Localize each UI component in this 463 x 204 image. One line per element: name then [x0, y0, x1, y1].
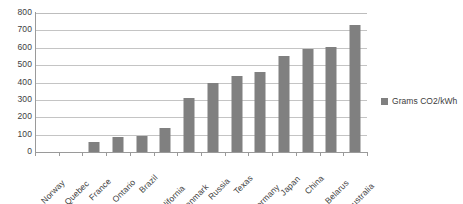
x-axis-tick-label: Japan [278, 174, 302, 198]
bar [350, 25, 361, 152]
bar-slot [35, 13, 59, 152]
bar [136, 136, 147, 152]
bar-slot [130, 13, 154, 152]
bar [184, 98, 195, 152]
x-axis-tick-label: Belarus [323, 178, 351, 204]
bar-slot [225, 13, 249, 152]
y-axis-tick-label: 700 [2, 24, 32, 34]
x-axis-tick [130, 152, 131, 156]
bar-slot [296, 13, 320, 152]
bar [207, 83, 218, 153]
bar [160, 128, 171, 152]
chart-legend: Grams CO2/kWh [381, 96, 457, 106]
y-axis-tick-label: 300 [2, 94, 32, 104]
bar-slot [320, 13, 344, 152]
x-axis-tick-label: Germany [250, 182, 282, 204]
bar-slot [272, 13, 296, 152]
x-axis-tick [59, 152, 60, 156]
bar-slot [106, 13, 130, 152]
y-axis-tick-label: 0 [2, 146, 32, 156]
x-axis-tick [367, 152, 368, 156]
bar [302, 49, 313, 152]
x-axis-tick-label: Ontario [110, 177, 137, 204]
bar-slot [343, 13, 367, 152]
x-axis-tick [177, 152, 178, 156]
bar-slot [201, 13, 225, 152]
x-axis-tick [248, 152, 249, 156]
y-axis-tick-label: 400 [2, 77, 32, 87]
legend-square-marker-icon [381, 98, 388, 105]
x-axis-tick-label: China [302, 173, 325, 196]
bar-slot [59, 13, 83, 152]
x-axis-tick [82, 152, 83, 156]
bar-slot [154, 13, 178, 152]
y-axis-tick-label: 500 [2, 59, 32, 69]
bar-slot [82, 13, 106, 152]
x-axis-tick-label: France [87, 176, 113, 202]
x-axis-ticks [35, 152, 367, 156]
bar [89, 142, 100, 152]
bar-chart: 8007006005004003002001000 NorwayQuebecFr… [0, 0, 463, 204]
bar [255, 72, 266, 152]
x-axis-labels: NorwayQuebecFranceOntarioBrazilCaliforni… [35, 157, 367, 204]
legend-entry-label: Grams CO2/kWh [392, 96, 457, 106]
y-axis-labels: 8007006005004003002001000 [0, 0, 32, 204]
x-axis-tick-label: Quebec [62, 178, 91, 204]
x-axis-tick [225, 152, 226, 156]
x-axis-tick-label: California [154, 183, 187, 204]
y-axis-tick-label: 600 [2, 42, 32, 52]
bar [231, 76, 242, 152]
bar-slot [248, 13, 272, 152]
y-axis-tick-label: 200 [2, 111, 32, 121]
x-axis-tick [154, 152, 155, 156]
x-axis-tick-label: Texas [231, 173, 254, 196]
x-axis-tick [106, 152, 107, 156]
y-axis-tick-label: 800 [2, 7, 32, 17]
bar [278, 56, 289, 152]
x-axis-tick [201, 152, 202, 156]
bar [326, 47, 337, 152]
x-axis-tick [272, 152, 273, 156]
bar-series-grams-co2-per-kwh [35, 13, 367, 152]
x-axis-tick [35, 152, 36, 156]
x-axis-tick-label: Brazil [137, 172, 160, 195]
y-axis-tick-label: 100 [2, 129, 32, 139]
bar [112, 137, 123, 152]
x-axis-tick [320, 152, 321, 156]
x-axis-tick [296, 152, 297, 156]
bar-slot [177, 13, 201, 152]
x-axis-tick [343, 152, 344, 156]
